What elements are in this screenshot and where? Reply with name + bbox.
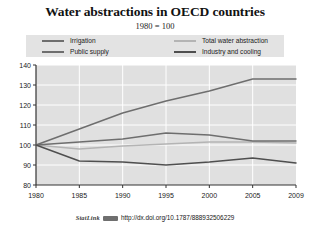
svg-text:2005: 2005 [245, 192, 261, 199]
svg-text:1990: 1990 [115, 192, 131, 199]
legend-item-total-water-abstraction: Total water abstraction [174, 35, 268, 46]
svg-text:130: 130 [19, 82, 31, 89]
source-line: StatLinkhttp://dx.doi.org/10.1787/888932… [0, 214, 310, 221]
page-title: Water abstractions in OECD countries [0, 4, 310, 20]
svg-text:120: 120 [19, 102, 31, 109]
legend-item-industry-and-cooling: Industry and cooling [174, 46, 268, 57]
svg-text:2009: 2009 [288, 192, 304, 199]
svg-text:140: 140 [19, 62, 31, 69]
legend-label-industry-and-cooling: Industry and cooling [202, 48, 261, 56]
legend-label-public-supply: Public supply [70, 48, 109, 56]
legend-swatch-industry-and-cooling [174, 51, 196, 53]
svg-text:1995: 1995 [158, 192, 174, 199]
svg-text:2000: 2000 [202, 192, 218, 199]
svg-text:110: 110 [20, 122, 31, 129]
legend-swatch-irrigation [42, 40, 64, 42]
chart-legend: Irrigation Public supply Total water abs… [26, 35, 284, 57]
legend-swatch-public-supply [42, 51, 64, 53]
chart-figure: Water abstractions in OECD countries 198… [0, 0, 310, 239]
line-chart-svg: 8090100110120130140198019851990199520002… [0, 58, 310, 213]
svg-text:100: 100 [19, 142, 31, 149]
source-url[interactable]: http://dx.doi.org/10.1787/888932506229 [121, 214, 234, 221]
statlink-badge-icon [103, 216, 118, 221]
legend-item-irrigation: Irrigation [42, 35, 109, 46]
legend-label-total-water-abstraction: Total water abstraction [202, 37, 268, 45]
legend-column-right: Total water abstraction Industry and coo… [174, 35, 268, 57]
legend-label-irrigation: Irrigation [70, 37, 96, 45]
svg-text:1980: 1980 [28, 192, 44, 199]
chart-subtitle: 1980 = 100 [0, 21, 310, 31]
legend-column-left: Irrigation Public supply [42, 35, 109, 57]
legend-swatch-total-water-abstraction [174, 40, 196, 42]
svg-text:1985: 1985 [72, 192, 88, 199]
legend-item-public-supply: Public supply [42, 46, 109, 57]
svg-text:80: 80 [23, 182, 31, 189]
statlink-label: StatLink [76, 214, 100, 221]
chart-plot-area: 8090100110120130140198019851990199520002… [0, 58, 310, 213]
svg-text:90: 90 [23, 162, 31, 169]
